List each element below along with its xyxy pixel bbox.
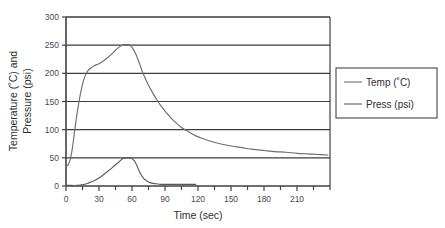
x-tick-label: 0 bbox=[64, 194, 69, 204]
y-tick-label: 250 bbox=[45, 40, 59, 50]
x-tick-label: 120 bbox=[191, 194, 205, 204]
y-tick-label: 0 bbox=[54, 181, 59, 191]
y-axis-title-line1: Temperature (˚C) and bbox=[7, 51, 19, 152]
y-tick-label: 200 bbox=[45, 68, 59, 78]
legend-label-press: Press (psi) bbox=[366, 99, 414, 110]
x-tick-label: 90 bbox=[160, 194, 170, 204]
y-tick-label: 150 bbox=[45, 97, 59, 107]
x-tick-label: 180 bbox=[257, 194, 271, 204]
y-tick-label: 300 bbox=[45, 12, 59, 22]
y-tick-label: 100 bbox=[45, 125, 59, 135]
line-chart: 0306090120150180210 050100150200250300 T… bbox=[0, 0, 445, 228]
x-tick-label: 60 bbox=[127, 194, 137, 204]
y-tick-label: 50 bbox=[50, 153, 60, 163]
x-tick-label: 210 bbox=[290, 194, 304, 204]
chart-legend[interactable]: Temp (˚C) Press (psi) bbox=[336, 68, 437, 118]
chart-container: 0306090120150180210 050100150200250300 T… bbox=[0, 0, 445, 228]
x-tick-label: 30 bbox=[94, 194, 104, 204]
legend-box bbox=[336, 68, 437, 118]
x-axis-title: Time (sec) bbox=[173, 209, 222, 221]
x-tick-label: 150 bbox=[224, 194, 238, 204]
legend-label-temp: Temp (˚C) bbox=[366, 77, 410, 88]
y-axis-title-line2: Pressure (psi) bbox=[21, 68, 33, 133]
